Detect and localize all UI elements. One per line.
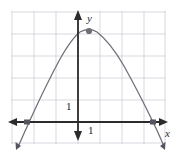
root-marker-right xyxy=(150,120,156,125)
graph-figure: y x 1 1 xyxy=(0,0,175,153)
x-unit-label: 1 xyxy=(88,125,94,136)
root-marker-left xyxy=(24,120,30,125)
y-axis-label: y xyxy=(87,13,92,24)
x-axis-label: x xyxy=(165,128,170,139)
y-unit-label: 1 xyxy=(66,101,72,112)
vertex-point xyxy=(86,28,92,34)
